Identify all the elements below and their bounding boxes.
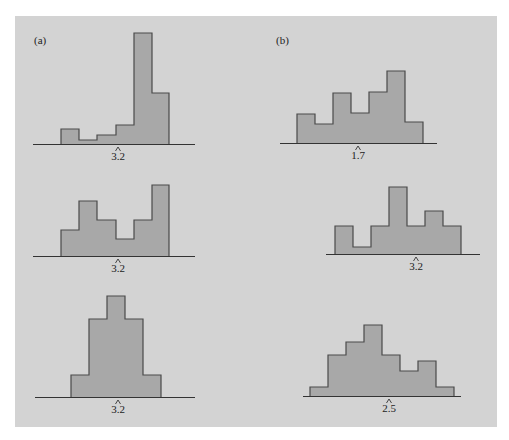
histogram-bar (116, 125, 134, 144)
histogram-bar (125, 319, 143, 397)
histogram-bar (107, 296, 125, 397)
histogram-bar (333, 93, 351, 143)
histogram-bar (443, 226, 461, 254)
histogram-figure: (a) (b) 3.23.23.21.73.22.5 (0, 0, 509, 440)
histogram-bar (371, 226, 389, 254)
mean-value-label: 3.2 (111, 262, 125, 274)
histogram-bar (425, 211, 443, 254)
histogram-bar (97, 135, 116, 144)
histogram-b-bottom: 2.5 (303, 325, 461, 414)
mean-value-label: 3.2 (409, 260, 423, 272)
histogram-bar (405, 122, 423, 143)
histogram-bar (71, 375, 89, 397)
mean-value-label: 1.7 (351, 149, 365, 161)
histogram-bar (134, 220, 152, 256)
histogram-bar (61, 230, 79, 256)
histogram-bar (310, 387, 328, 396)
histogram-bar (382, 355, 400, 396)
histogram-bar (152, 93, 169, 144)
histogram-bar (152, 185, 169, 256)
histogram-bar (387, 71, 405, 143)
histogram-bar (134, 33, 152, 144)
mean-value-label: 3.2 (111, 150, 125, 162)
histogram-bar (400, 371, 418, 396)
histogram-a-bottom: 3.2 (35, 296, 195, 415)
histogram-b-middle: 3.2 (326, 187, 480, 272)
mean-value-label: 2.5 (382, 402, 396, 414)
histogram-bar (61, 129, 79, 144)
histogram-a-middle: 3.2 (33, 185, 195, 274)
histogram-bar (335, 226, 353, 254)
histogram-b-top: 1.7 (280, 71, 437, 161)
histogram-bar (407, 226, 425, 254)
histogram-bar (89, 319, 107, 397)
histogram-bar (346, 342, 364, 396)
histogram-bar (79, 201, 97, 256)
mean-value-label: 3.2 (111, 403, 125, 415)
histogram-bar (369, 92, 387, 143)
histogram-bar (436, 387, 454, 396)
histogram-bar (143, 375, 161, 397)
histogram-bar (351, 113, 369, 143)
histogram-bar (315, 124, 333, 143)
histogram-bar (389, 187, 407, 254)
histogram-bar (97, 220, 116, 256)
histogram-a-top: 3.2 (33, 33, 195, 162)
histogram-bar (364, 325, 382, 396)
histogram-bar (116, 239, 134, 256)
panel-label-b: (b) (276, 34, 289, 47)
histogram-bar (353, 247, 371, 254)
histogram-bar (418, 361, 436, 396)
panel-label-a: (a) (34, 34, 47, 47)
histogram-bar (297, 114, 315, 143)
histogram-bar (328, 355, 346, 396)
